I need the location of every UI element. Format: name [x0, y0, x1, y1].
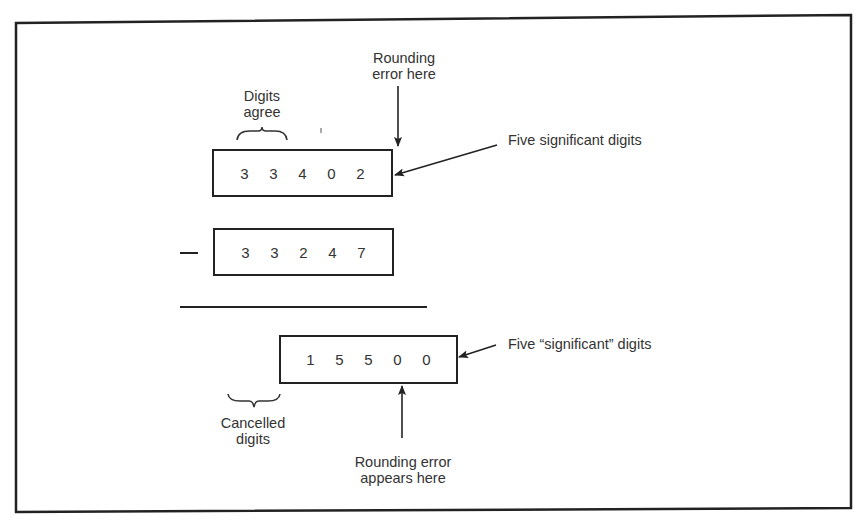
digits-agree-line-2: agree — [232, 104, 292, 120]
result-box: 1 5 5 0 0 — [279, 335, 458, 384]
cancelled-digits-line-2: digits — [208, 431, 298, 447]
rounding-error-here-label: Rounding error here — [358, 50, 450, 82]
result-digit: 1 — [296, 351, 325, 368]
five-significant-digits-label: Five significant digits — [508, 132, 642, 148]
cancelled-digits-line-1: Cancelled — [208, 415, 298, 431]
digits-agree-brace-icon — [237, 127, 287, 140]
subtrahend-digit: 3 — [231, 244, 260, 261]
five-quoted-significant-digits-label: Five “significant” digits — [508, 336, 651, 352]
rounding-error-here-line-2: error here — [358, 66, 450, 82]
result-digit: 5 — [325, 351, 354, 368]
result-digit: 0 — [412, 351, 441, 368]
subtrahend-digit: 2 — [289, 244, 318, 261]
rounding-error-here-line-1: Rounding — [358, 50, 450, 66]
minuend-digit: 0 — [317, 165, 346, 182]
subtrahend-digits: 3 3 2 4 7 — [231, 244, 376, 261]
rounding-error-appears-line-1: Rounding error — [338, 454, 468, 470]
result-digit: 0 — [383, 351, 412, 368]
digits-agree-line-1: Digits — [232, 88, 292, 104]
minuend-digits: 3 3 4 0 2 — [230, 165, 375, 182]
minuend-digit: 4 — [288, 165, 317, 182]
subtrahend-digit: 7 — [347, 244, 376, 261]
five-significant-arrow — [395, 145, 497, 175]
rounding-error-appears-label: Rounding error appears here — [338, 454, 468, 486]
outer-border — [16, 15, 851, 512]
five-significant-quoted-arrow — [459, 345, 496, 357]
result-digits: 1 5 5 0 0 — [296, 351, 441, 368]
result-digit: 5 — [354, 351, 383, 368]
rounding-error-appears-line-2: appears here — [338, 470, 468, 486]
digits-agree-label: Digits agree — [232, 88, 292, 120]
minuend-digit: 3 — [230, 165, 259, 182]
cancelled-digits-brace-icon — [228, 394, 280, 407]
subtrahend-digit: 3 — [260, 244, 289, 261]
minuend-digit: 2 — [346, 165, 375, 182]
cancelled-digits-label: Cancelled digits — [208, 415, 298, 447]
minuend-digit: 3 — [259, 165, 288, 182]
minuend-box: 3 3 4 0 2 — [212, 149, 393, 197]
subtrahend-box: 3 3 2 4 7 — [213, 228, 394, 276]
subtrahend-digit: 4 — [318, 244, 347, 261]
